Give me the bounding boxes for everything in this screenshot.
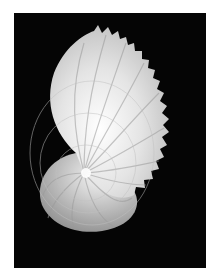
shell-umbilicus <box>81 168 91 178</box>
photo-frame <box>14 13 206 268</box>
shell-photo <box>14 13 206 268</box>
